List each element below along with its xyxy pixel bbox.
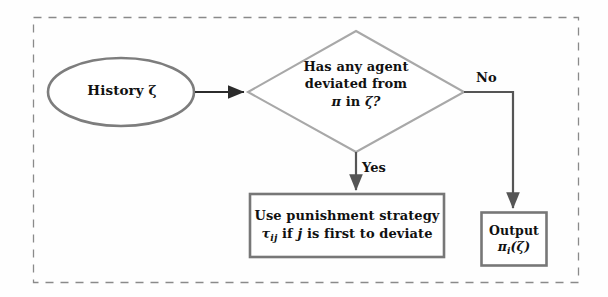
punishment-box xyxy=(250,194,444,257)
flowchart-canvas xyxy=(0,0,608,297)
flowchart-figure: History ζ Has any agent deviated from π … xyxy=(0,0,608,297)
edge-label-no: No xyxy=(476,70,497,85)
history-ellipse xyxy=(48,58,194,126)
edge-decision-no xyxy=(464,92,513,208)
decision-diamond xyxy=(248,31,464,152)
output-box xyxy=(482,213,547,266)
edge-label-yes: Yes xyxy=(362,160,386,175)
